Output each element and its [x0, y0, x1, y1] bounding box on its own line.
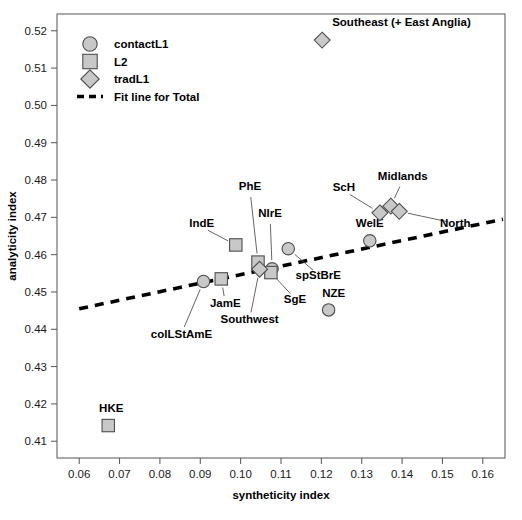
y-tick-label: 0.48 [25, 174, 47, 186]
series-tradL1: SouthwestScHMidlandsNorthSoutheast (+ Ea… [221, 16, 471, 325]
leader-line-colLStAmE [184, 290, 200, 328]
legend-tradL1-diamond-marker[interactable] [81, 70, 99, 88]
legend-item-Fit line for Total[interactable]: Fit line for Total [77, 91, 199, 103]
x-tick-label: 0.08 [149, 468, 171, 480]
y-tick-label: 0.47 [25, 211, 47, 223]
point-label-HKE: HKE [99, 402, 124, 414]
figure-container: 0.060.070.080.090.100.110.120.130.140.15… [0, 0, 522, 520]
leader-line-Southwest [251, 278, 258, 313]
leader-line-IndE [208, 230, 228, 241]
legend-item-L2[interactable]: L2 [83, 54, 128, 68]
y-axis-title: analyticity index [6, 191, 18, 281]
x-tick-label: 0.13 [351, 468, 373, 480]
point-label-colLStAmE: colLStAmE [151, 328, 213, 340]
y-tick-label: 0.44 [25, 323, 48, 335]
y-tick-label: 0.49 [25, 137, 47, 149]
legend-label-Fit line for Total: Fit line for Total [114, 91, 199, 103]
y-tick-label: 0.42 [25, 398, 47, 410]
point-label-North: North [440, 217, 471, 229]
leader-line-SgE [277, 279, 290, 293]
legend: contactL1L2tradL1Fit line for Total [77, 37, 199, 103]
point-label-Southwest: Southwest [221, 313, 279, 325]
leader-line-PhE [251, 197, 257, 253]
Southeast (+ East Anglia)-diamond-marker[interactable] [314, 32, 330, 48]
x-tick-label: 0.07 [108, 468, 130, 480]
x-tick-label: 0.06 [68, 468, 90, 480]
x-tick-label: 0.16 [472, 468, 494, 480]
y-tick-label: 0.45 [25, 286, 47, 298]
point-label-ScH: ScH [333, 181, 355, 193]
y-tick-label: 0.46 [25, 249, 47, 261]
x-axis-title: syntheticity index [232, 489, 330, 501]
point-label-spStBrE: spStBrE [296, 269, 342, 281]
x-tick-label: 0.10 [229, 468, 251, 480]
legend-label-contactL1: contactL1 [114, 38, 169, 50]
legend-item-contactL1[interactable]: contactL1 [83, 37, 169, 51]
data-points-layer: colLStAmENIrEspStBrEWelENZEHKEJamEIndEPh… [99, 16, 471, 432]
scatter-plot: 0.060.070.080.090.100.110.120.130.140.15… [0, 0, 522, 520]
point-label-Midlands: Midlands [378, 170, 428, 182]
point-label-NIrE: NIrE [258, 207, 282, 219]
leader-line-NIrE [270, 224, 271, 260]
y-tick-label: 0.43 [25, 361, 47, 373]
legend-contactL1-circle-marker[interactable] [83, 37, 97, 51]
y-tick-label: 0.50 [25, 99, 47, 111]
HKE-square-marker[interactable] [102, 419, 114, 431]
point-label-JamE: JamE [210, 297, 241, 309]
legend-label-tradL1: tradL1 [114, 73, 150, 85]
point-label-SgE: SgE [284, 293, 307, 305]
NZE-circle-marker[interactable] [322, 304, 334, 316]
caption-strip [0, 508, 522, 520]
leader-line-Midlands [394, 187, 399, 199]
x-tick-label: 0.12 [310, 468, 332, 480]
leader-line-JamE [223, 287, 224, 296]
x-tick-label: 0.11 [270, 468, 292, 480]
colLStAmE-circle-marker[interactable] [197, 275, 209, 287]
x-tick-label: 0.15 [431, 468, 453, 480]
spStBrE-circle-marker[interactable] [282, 242, 294, 254]
WelE-circle-marker[interactable] [364, 235, 376, 247]
point-label-PhE: PhE [239, 180, 262, 192]
x-tick-label: 0.09 [189, 468, 211, 480]
y-tick-label: 0.51 [25, 62, 47, 74]
legend-label-L2: L2 [114, 56, 127, 68]
point-label-IndE: IndE [189, 217, 214, 229]
JamE-square-marker[interactable] [215, 273, 227, 285]
legend-L2-square-marker[interactable] [83, 54, 97, 68]
leader-line-ScH [350, 195, 373, 209]
IndE-square-marker[interactable] [230, 239, 242, 251]
y-tick-label: 0.41 [25, 435, 47, 447]
point-label-NZE: NZE [322, 287, 345, 299]
point-label-Southeast (+ East Anglia): Southeast (+ East Anglia) [332, 16, 471, 28]
x-tick-label: 0.14 [391, 468, 414, 480]
y-tick-label: 0.52 [25, 25, 47, 37]
legend-item-tradL1[interactable]: tradL1 [81, 70, 150, 88]
